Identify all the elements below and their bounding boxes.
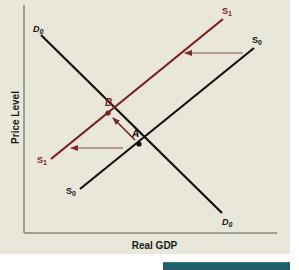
teal-footer-bar [163, 262, 290, 270]
point-a-dot [136, 141, 141, 146]
point-b-label: B [105, 97, 112, 108]
y-axis-label: Price Level [10, 73, 21, 163]
s1-top-label: S1 [222, 6, 232, 17]
s0-bottom-label: S0 [66, 186, 76, 197]
d0-bottom-label: D0 [222, 217, 233, 228]
s1-bottom-label: S1 [37, 155, 47, 166]
point-a-label: A [131, 128, 139, 139]
s0-curve [80, 48, 254, 189]
x-axis-label: Real GDP [0, 240, 299, 251]
point-b-dot [105, 110, 110, 115]
d0-top-label: D0 [33, 24, 44, 35]
s0-top-label: S0 [252, 35, 262, 46]
